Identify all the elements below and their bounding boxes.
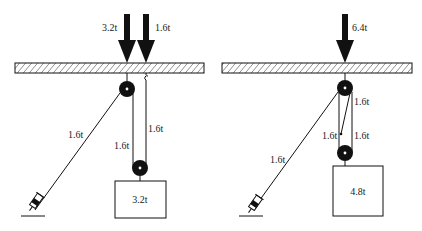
load-label: 3.2t <box>102 22 118 33</box>
rope-inclined <box>35 93 120 210</box>
ceiling-beam <box>222 63 412 73</box>
winch-icon <box>25 192 44 213</box>
left-diagram: 3.2t 1.6t 1.6t 1.6t 1.6t 3 <box>15 14 204 218</box>
load-arrow-icon <box>118 14 136 63</box>
movable-pulley-icon <box>132 160 148 176</box>
load-label: 6.4t <box>352 22 368 33</box>
rope-diagonal <box>341 93 350 134</box>
rope-label: 1.6t <box>322 130 338 141</box>
rope-label: 1.6t <box>354 130 370 141</box>
weight-label: 4.8t <box>350 186 366 197</box>
rope-label: 1.6t <box>270 154 286 165</box>
load-label: 1.6t <box>155 22 171 33</box>
movable-pulley-icon <box>337 145 353 161</box>
right-diagram: 6.4t 1.6t 1.6t 1.6t 1.6t 4.8t <box>222 14 412 216</box>
pulley-diagrams: 3.2t 1.6t 1.6t 1.6t 1.6t 3 <box>0 0 422 231</box>
rope-label: 1.6t <box>68 129 84 140</box>
hook-icon <box>145 73 148 80</box>
rope-label: 1.6t <box>148 123 164 134</box>
weight-label: 3.2t <box>132 194 148 205</box>
rope-inclined <box>254 92 338 208</box>
winch-icon <box>244 194 263 215</box>
rope-label: 1.6t <box>354 96 370 107</box>
ceiling-beam <box>15 63 204 73</box>
rope-label: 1.6t <box>114 140 130 151</box>
load-arrow-icon <box>137 14 155 63</box>
